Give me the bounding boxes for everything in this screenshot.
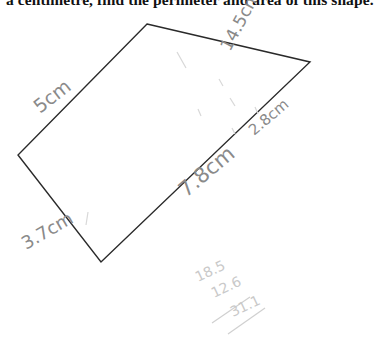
working-calculation: 18.5 12.6 31.1 (193, 257, 265, 334)
pencil-marks (86, 52, 258, 225)
label-5cm: 5cm (29, 75, 75, 118)
label-7-8cm: 7.8cm (174, 141, 240, 201)
label-3-7cm: 3.7cm (18, 207, 77, 253)
working-line-3: 31.1 (228, 292, 263, 320)
